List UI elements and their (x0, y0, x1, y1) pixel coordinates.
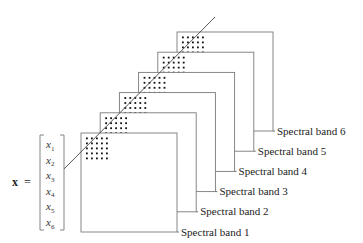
band-label: Spectral band 6 (277, 125, 346, 137)
spectral-bands-diagram: Spectral band 6Spectral band 5Spectral b… (0, 0, 363, 243)
vector-entry-1: x1 (45, 138, 55, 153)
band-image-square (81, 133, 177, 232)
bands-stack: Spectral band 6Spectral band 5Spectral b… (81, 32, 346, 238)
left-bracket (40, 135, 44, 230)
vector-entries: x1x2x3x4x5x6 (45, 138, 55, 231)
vector-entry-5: x5 (45, 200, 55, 215)
vector-entry-4: x4 (45, 185, 55, 200)
band-label: Spectral band 5 (258, 145, 327, 157)
equals-sign: = (24, 175, 31, 189)
band-label: Spectral band 4 (239, 165, 308, 177)
vector-entry-3: x3 (45, 169, 55, 184)
pixel-vector: x = x1x2x3x4x5x6 (12, 135, 64, 231)
vector-entry-6: x6 (45, 216, 55, 231)
right-bracket (60, 135, 64, 230)
band-label: Spectral band 1 (181, 226, 249, 238)
vector-name: x (12, 175, 18, 189)
band-label: Spectral band 2 (200, 205, 268, 217)
vector-entry-2: x2 (45, 154, 55, 169)
band-label: Spectral band 3 (219, 185, 288, 197)
